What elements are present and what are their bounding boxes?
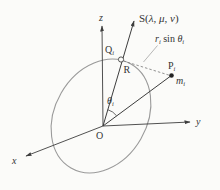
z-axis-label: z [98,12,103,23]
mass-label: mi [176,75,185,87]
z-axis-line [102,26,103,126]
x-axis-label: x [11,155,17,166]
mass-point-marker [169,73,174,78]
x-axis-line [26,126,103,156]
angle-arc [108,110,117,116]
label-leader-line [144,46,158,63]
s-axis-label: S(λ, μ, ν) [139,12,179,25]
q-point-label: Qi [105,44,114,56]
origin-label: O [96,130,103,141]
diagram-canvas: z y x O S(λ, μ, ν) ri sin θi Qi R Pi mi [0,0,220,190]
y-axis-line [103,122,190,126]
inertia-axis-diagram: z y x O S(λ, μ, ν) ri sin θi Qi R Pi mi [0,0,220,190]
y-axis-label: y [195,116,201,127]
radius-label: R [124,64,131,75]
angle-label: θi [107,95,114,107]
q-point-marker [118,57,123,62]
body-ellipse [31,41,171,190]
perpendicular-distance-label: ri sin θi [155,33,184,45]
p-point-label: Pi [168,60,176,72]
